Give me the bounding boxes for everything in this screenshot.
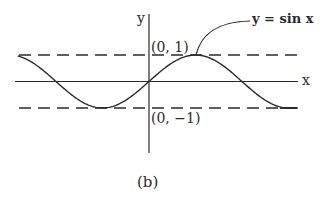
curve-label: y = sin x (252, 12, 313, 25)
figure-caption: (b) (137, 175, 158, 190)
point-label-bottom: (0, −1) (151, 111, 200, 125)
point-label-top: (0, 1) (151, 40, 189, 54)
sine-graph (0, 0, 326, 202)
curve-label-leader (196, 21, 250, 55)
y-axis-label: y (137, 11, 145, 25)
x-axis-label: x (302, 73, 310, 87)
